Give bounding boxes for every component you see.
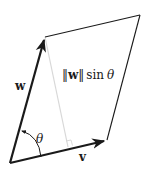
- sin-label: sin: [86, 68, 104, 82]
- label-height-expression: ‖w‖sinθ: [62, 69, 114, 81]
- sin-theta: θ: [107, 68, 114, 82]
- label-w: w: [15, 80, 25, 92]
- label-v: v: [79, 151, 86, 163]
- label-theta: θ: [36, 133, 43, 145]
- vector-v-arrow: [10, 141, 104, 163]
- norm-w: w: [68, 68, 78, 82]
- top-edge: [45, 15, 140, 37]
- norm-close: ‖: [78, 68, 84, 82]
- height-line: [45, 37, 68, 147]
